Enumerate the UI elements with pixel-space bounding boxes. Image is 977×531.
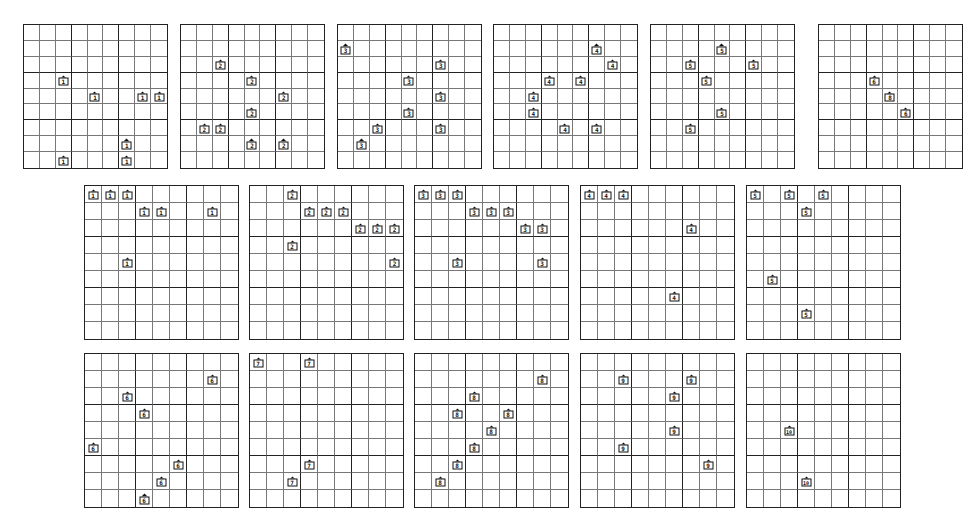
grid-cell: 3 [449, 254, 466, 271]
grid-cell [914, 104, 930, 120]
house-piece-icon: 9 [703, 459, 714, 470]
grid-cell [883, 73, 899, 89]
grid-cell [835, 120, 851, 136]
grid-cell [851, 136, 867, 152]
grid-cell [819, 104, 835, 120]
grid-cell [181, 152, 197, 168]
grid-cell [883, 25, 899, 41]
grid-cell [589, 136, 605, 152]
grid-cell [352, 405, 369, 422]
grid-cell: 9 [700, 456, 717, 473]
house-piece-icon: 5 [784, 189, 795, 200]
grid-cell [308, 25, 324, 41]
grid-cell [415, 354, 432, 371]
grid-cell: 1 [119, 254, 136, 271]
grid-cell [119, 354, 136, 371]
grid-cell [72, 120, 88, 136]
grid-cell [517, 456, 534, 473]
grid-cell: 2 [213, 120, 229, 136]
grid-cell [338, 136, 354, 152]
grid-cell [494, 25, 510, 41]
grid-cell: 2 [245, 73, 261, 89]
house-piece-icon: 2 [355, 223, 366, 234]
grid-cell [867, 25, 883, 41]
grid-cell [883, 186, 900, 203]
grid-cell [717, 473, 734, 490]
grid-cell [308, 41, 324, 57]
house-piece-icon: 10 [784, 425, 795, 436]
grid-cell [187, 456, 204, 473]
grid-cell [153, 354, 170, 371]
grid-cell [581, 371, 598, 388]
grid-cell: 8 [449, 405, 466, 422]
grid-cell [798, 371, 815, 388]
grid-cell: 1 [119, 152, 135, 168]
grid-cell [883, 305, 900, 322]
grid-cell [573, 120, 589, 136]
grid-cell: 1 [102, 186, 119, 203]
grid-cell [883, 271, 900, 288]
grid-cell [866, 254, 883, 271]
grid-cell [260, 89, 276, 105]
grid-cell [551, 237, 568, 254]
grid-cell [581, 405, 598, 422]
grid-cell [229, 73, 245, 89]
grid-cell [500, 271, 517, 288]
grid-cell: 3 [449, 186, 466, 203]
grid-cell [204, 388, 221, 405]
grid-cell [352, 237, 369, 254]
grid-cell [221, 354, 238, 371]
grid-cell [292, 89, 308, 105]
grid-cell [85, 422, 102, 439]
grid-cell [778, 136, 794, 152]
grid-cell [465, 89, 481, 105]
grid-cell [551, 220, 568, 237]
grid-cell [815, 388, 832, 405]
grid-cell [292, 152, 308, 168]
grid-cell: 4 [542, 73, 558, 89]
grid-cell [615, 203, 632, 220]
grid-cell [308, 89, 324, 105]
grid-cell [135, 136, 151, 152]
grid-cell [764, 186, 781, 203]
grid-cell [465, 152, 481, 168]
grid-cell [621, 25, 637, 41]
grid-cell [402, 89, 418, 105]
grid-cell: 3 [500, 203, 517, 220]
grid-cell [700, 354, 717, 371]
grid-cell [551, 288, 568, 305]
grid-cell [449, 73, 465, 89]
grid-cell [898, 25, 914, 41]
grid-cell [370, 136, 386, 152]
grid-cell [221, 422, 238, 439]
grid-cell [762, 41, 778, 57]
grid-cell [136, 422, 153, 439]
piece-label: 3 [340, 46, 350, 54]
grid-cell [204, 254, 221, 271]
grid-cell [245, 57, 261, 73]
grid-cell [700, 237, 717, 254]
grid-cell [335, 439, 352, 456]
grid-cell [666, 305, 683, 322]
grid-cell [267, 490, 284, 507]
grid-cell [778, 73, 794, 89]
grid-cell [815, 490, 832, 507]
grid-cell [386, 490, 403, 507]
grid-cell [221, 439, 238, 456]
grid-cell [558, 152, 574, 168]
grid-cell: 6 [136, 490, 153, 507]
grid-cell [849, 405, 866, 422]
grid-cell [119, 288, 136, 305]
grid-cell [369, 456, 386, 473]
grid-cell [867, 152, 883, 168]
grid-cell [866, 354, 883, 371]
grid-cell [849, 237, 866, 254]
grid-cell: 2 [213, 57, 229, 73]
grid-cell [683, 288, 700, 305]
grid-cell [386, 305, 403, 322]
grid-cell [103, 57, 119, 73]
grid-cell [292, 57, 308, 73]
grid-cell [352, 271, 369, 288]
grid-cell [778, 57, 794, 73]
grid-cell [815, 439, 832, 456]
